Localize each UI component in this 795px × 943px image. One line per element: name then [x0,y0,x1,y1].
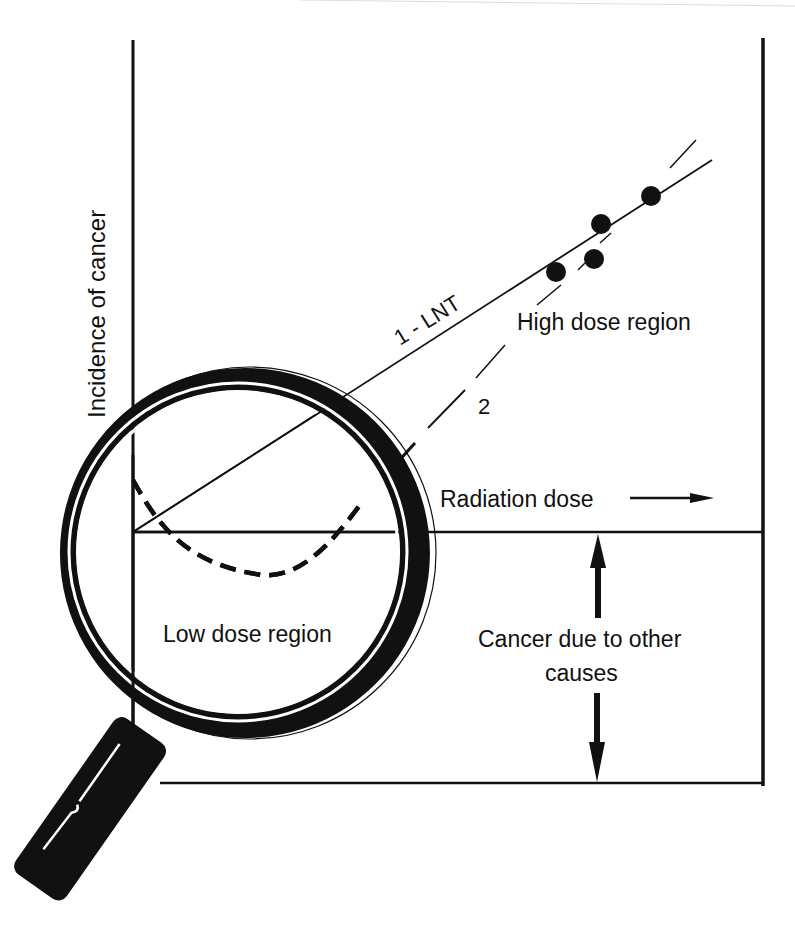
scan-edge [300,0,795,6]
baseline-double-arrow-icon [589,534,606,782]
high-dose-region-label: High dose region [517,309,691,335]
x-axis-label: Radiation dose [440,486,593,512]
x-axis-arrow-icon [630,493,714,503]
data-points [546,186,661,282]
diagram-canvas: Incidence of cancer 1 - LNT 2 High dose … [0,0,795,943]
low-dose-region-label: Low dose region [163,621,332,647]
lnt-curve-label: 1 - LNT [389,290,464,350]
other-causes-label-line1: Cancer due to other [478,626,682,652]
other-causes-label-line2: causes [545,660,618,686]
curve-2-label: 2 [478,394,490,419]
y-axis-label: Incidence of cancer [83,210,110,418]
